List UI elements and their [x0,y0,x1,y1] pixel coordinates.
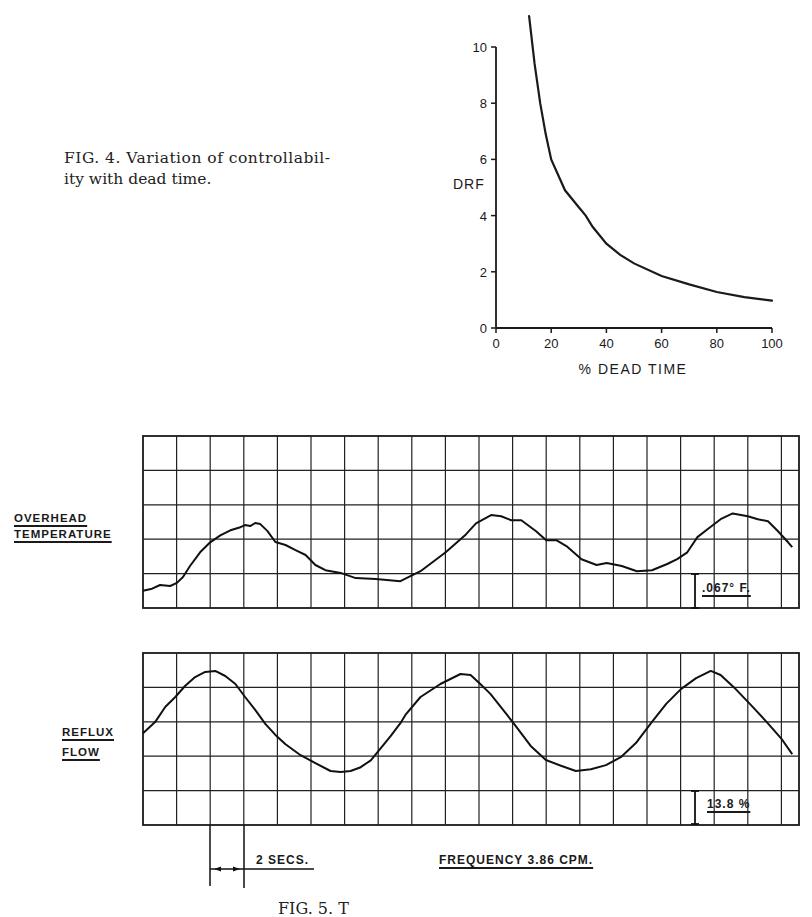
figure-5-caption-partial: FIG. 5. T [278,899,349,917]
y-axis-label: DRF [453,176,485,192]
grid-frame [143,653,799,825]
x-tick-label: 80 [710,336,724,351]
time-marker-label: 2 SECS. [256,853,309,867]
frequency-label: FREQUENCY 3.86 CPM. [439,853,593,867]
x-tick-label: 0 [492,336,499,351]
y-tick-label: 0 [480,321,487,336]
drf-curve-line [529,16,772,301]
arrow-right-icon [233,867,240,872]
x-tick-label: 100 [761,336,783,351]
reflux-scale-bar [691,791,699,824]
y-tick-label: 6 [480,152,487,167]
recorder-traces [0,420,812,900]
x-tick-label: 20 [544,336,558,351]
grid-frame [143,436,799,608]
reflux-grid [143,653,799,825]
temperature-grid [143,436,799,608]
x-axis-label: % DEAD TIME [579,361,688,377]
drf-chart: 0246810020406080100 DRF % DEAD TIME [0,0,812,400]
temperature-scale-label: .067° F. [702,581,751,595]
y-tick-label: 10 [473,40,487,55]
y-tick-label: 8 [480,96,487,111]
reflux-scale-label: 13.8 % [707,797,750,811]
y-tick-label: 2 [480,265,487,280]
x-tick-label: 40 [599,336,613,351]
y-tick-label: 4 [480,209,487,224]
temperature-scale-bar [691,574,699,608]
drf-chart-ticks: 0246810020406080100 [473,40,783,351]
arrow-left-icon [214,867,221,872]
x-tick-label: 60 [654,336,668,351]
